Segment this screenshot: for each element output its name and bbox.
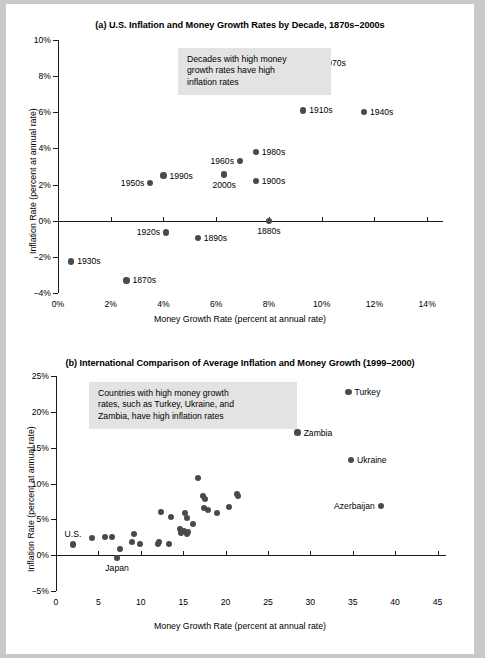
data-point-label: 1870s [133, 275, 156, 285]
data-point [158, 509, 164, 515]
data-point-label: 1940s [370, 107, 393, 117]
data-point-azerbaijan [378, 503, 384, 509]
data-point-label: 1980s [262, 147, 285, 157]
data-point [166, 541, 172, 547]
x-tick-mark [216, 217, 217, 222]
x-tick-label: 5 [96, 597, 101, 607]
data-point-label: Japan [105, 563, 128, 573]
x-tick-mark [427, 217, 428, 222]
x-tick-mark [310, 551, 311, 556]
y-tick-label: −4% [34, 288, 51, 298]
y-tick-mark [53, 40, 58, 41]
data-point-label: 1910s [309, 105, 332, 115]
x-tick-mark [268, 551, 269, 556]
y-tick-label: −5% [32, 586, 49, 596]
y-tick-label: 15% [32, 443, 49, 453]
x-tick-mark [374, 217, 375, 222]
x-tick-label: 4% [157, 299, 169, 309]
data-point-label: 1990s [169, 171, 192, 181]
x-tick-mark [111, 217, 112, 222]
data-point-1920s [163, 229, 169, 235]
x-tick-label: 40 [390, 597, 400, 607]
data-point-label: 1890s [204, 233, 227, 243]
data-point-label: U.S. [65, 529, 82, 539]
x-tick-label: 14% [419, 299, 436, 309]
data-point [137, 541, 143, 547]
chart-a-y-axis-title: Inflation Rate (percent at annual rate) [28, 108, 38, 254]
y-tick-label: 2% [39, 180, 51, 190]
x-tick-label: 35 [348, 597, 358, 607]
x-tick-mark [183, 551, 184, 556]
data-point-1880s [266, 218, 272, 224]
x-tick-mark [163, 217, 164, 222]
x-tick-mark [395, 551, 396, 556]
data-point-label: 1950s [121, 178, 144, 188]
data-point-label: 1920s [137, 227, 160, 237]
x-tick-mark [141, 551, 142, 556]
data-point-label: 1960s [211, 156, 234, 166]
data-point [117, 546, 123, 552]
data-point-1930s [68, 258, 74, 264]
chart-b-plot-area: −5%0%5%10%15%20%25% 051015202530354045 T… [56, 376, 446, 591]
y-tick-mark [51, 591, 56, 592]
data-point-1870s [123, 277, 129, 283]
data-point [131, 531, 137, 537]
data-point-label: Turkey [355, 387, 381, 397]
chart-b-y-axis-line [56, 376, 57, 591]
y-tick-label: 5% [37, 514, 49, 524]
y-tick-label: 4% [39, 143, 51, 153]
x-tick-label: 25 [263, 597, 273, 607]
data-point [235, 493, 241, 499]
data-point [205, 507, 211, 513]
y-tick-label: 10% [34, 35, 51, 45]
x-tick-mark [98, 551, 99, 556]
chart-a-y-axis-line [58, 40, 59, 293]
x-tick-label: 15 [178, 597, 188, 607]
y-tick-mark [51, 519, 56, 520]
data-point-1950s [147, 180, 153, 186]
y-tick-mark [51, 412, 56, 413]
data-point [195, 475, 201, 481]
data-point-ukraine [348, 457, 354, 463]
y-tick-mark [51, 448, 56, 449]
x-tick-label: 6% [210, 299, 222, 309]
chart-a-plot-area: −4%−2%0%2%4%6%8%10% 0%2%4%6%8%10%12%14% … [58, 40, 443, 293]
chart-panel-b: (b) International Comparison of Average … [6, 340, 474, 654]
chart-a-x-axis-line [58, 221, 443, 222]
data-point [184, 515, 190, 521]
data-point-1940s [361, 109, 367, 115]
x-tick-label: 8% [263, 299, 275, 309]
data-point [226, 504, 232, 510]
x-tick-mark [353, 551, 354, 556]
x-tick-mark [322, 217, 323, 222]
data-point-label: 1930s [77, 256, 100, 266]
data-point-turkey [345, 389, 351, 395]
data-point-2000s [221, 171, 227, 177]
chart-a-title: (a) U.S. Inflation and Money Growth Rate… [6, 20, 474, 30]
data-point-japan [114, 555, 120, 561]
data-point-1900s [253, 178, 259, 184]
data-point-label: Zambia [304, 428, 333, 438]
data-point-1990s [160, 172, 166, 178]
y-tick-mark [53, 76, 58, 77]
x-tick-label: 10 [136, 597, 146, 607]
chart-a-x-axis-title: Money Growth Rate (percent at annual rat… [6, 314, 474, 324]
y-tick-mark [53, 148, 58, 149]
data-point-label: Ukraine [357, 455, 387, 465]
y-tick-label: −2% [34, 252, 51, 262]
y-tick-label: 0% [37, 550, 49, 560]
y-tick-mark [53, 293, 58, 294]
data-point [129, 539, 135, 545]
x-tick-mark [438, 551, 439, 556]
x-tick-label: 0% [52, 299, 64, 309]
y-tick-mark [53, 185, 58, 186]
chart-b-x-axis-title: Money Growth Rate (percent at annual rat… [6, 621, 474, 631]
y-tick-label: 0% [39, 216, 51, 226]
data-point [102, 534, 108, 540]
x-tick-label: 2% [105, 299, 117, 309]
figure-page: (a) U.S. Inflation and Money Growth Rate… [6, 4, 474, 654]
x-tick-label: 10% [313, 299, 330, 309]
y-tick-label: 8% [39, 71, 51, 81]
y-tick-label: 10% [32, 479, 49, 489]
data-point-label: 1900s [262, 176, 285, 186]
